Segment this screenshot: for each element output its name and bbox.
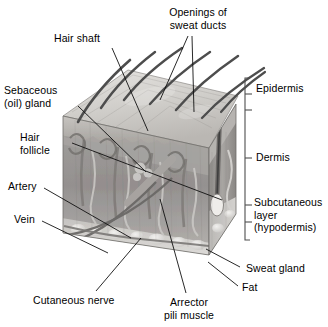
- leader-artery: [44, 188, 131, 238]
- leader-hair-shaft: [112, 48, 148, 131]
- leader-arrector-pili: [160, 199, 186, 293]
- label-sebaceous-gland: Sebaceous (oil) gland: [4, 84, 57, 109]
- label-sweat-gland: Sweat gland: [246, 262, 305, 275]
- label-epidermis: Epidermis: [256, 82, 304, 95]
- leader-vein: [42, 221, 108, 253]
- label-hair-shaft: Hair shaft: [54, 32, 100, 45]
- label-vein: Vein: [14, 213, 35, 226]
- label-fat: Fat: [242, 281, 257, 294]
- label-artery: Artery: [8, 180, 37, 193]
- label-openings-sweat-ducts: Openings of sweat ducts: [156, 6, 240, 31]
- leader-cutaneous-nerve: [96, 238, 141, 291]
- label-arrector-pili-muscle: Arrector pili muscle: [157, 296, 221, 321]
- label-cutaneous-nerve: Cutaneous nerve: [33, 294, 114, 307]
- leader-lines: [0, 0, 328, 327]
- leader-hair-follicle: [72, 143, 222, 200]
- label-subcutaneous-layer: Subcutaneous layer (hypodermis): [254, 196, 328, 234]
- label-hair-follicle: Hair follicle: [20, 131, 50, 156]
- leader-fat: [208, 262, 238, 286]
- leader-sebaceous: [78, 106, 146, 172]
- leader-sweat-duct-2: [192, 36, 194, 112]
- label-dermis: Dermis: [256, 151, 290, 164]
- leader-sweat-duct-1: [160, 36, 188, 100]
- skin-cross-section-figure: Hair shaft Openings of sweat ducts Sebac…: [0, 0, 328, 327]
